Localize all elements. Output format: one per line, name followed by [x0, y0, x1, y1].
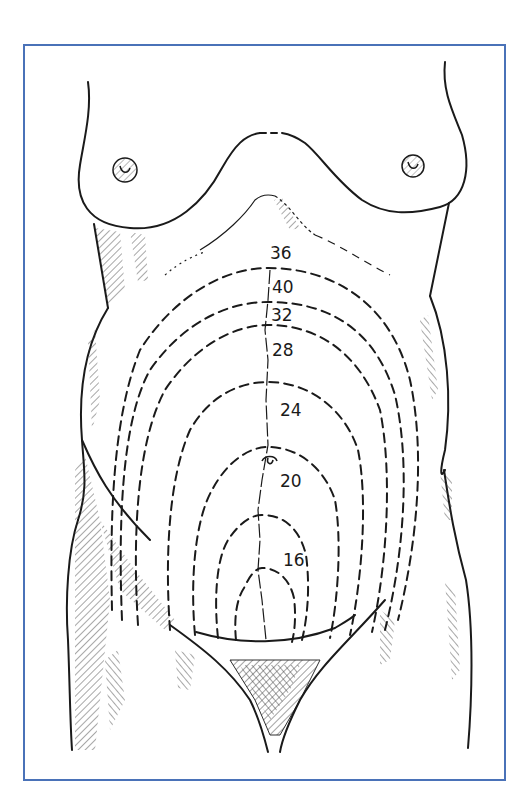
torso-illustration: [0, 0, 522, 804]
pubic-hair: [230, 660, 320, 735]
left-breast-outline: [79, 82, 260, 228]
contour-24: [193, 447, 338, 638]
right-breast-outline: [282, 62, 466, 212]
umbilicus-icon: [262, 457, 277, 464]
week-label-32: 32: [271, 307, 293, 324]
contour-32: [136, 325, 387, 632]
contour-28: [168, 382, 363, 635]
fundal-contours: [111, 268, 418, 642]
week-label-24: 24: [280, 402, 302, 419]
week-label-40: 40: [272, 279, 294, 296]
week-label-16: 16: [283, 552, 305, 569]
week-label-28: 28: [272, 342, 294, 359]
week-label-20: 20: [280, 473, 302, 490]
week-label-36: 36: [270, 245, 292, 262]
right-torso-side: [430, 203, 449, 296]
